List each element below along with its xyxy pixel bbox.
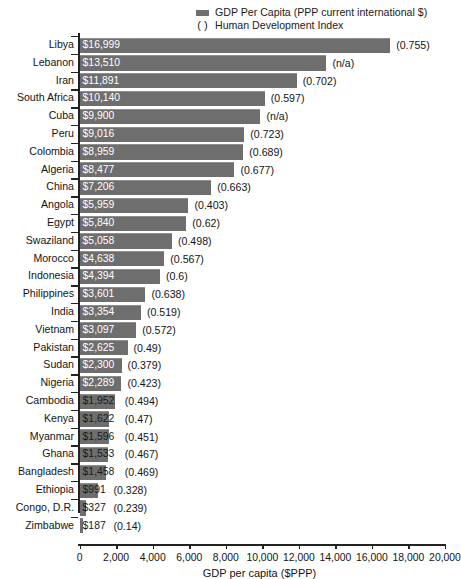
bar-row: Cambodia$1,952(0.494) [0,392,461,410]
category-label: Philippines [23,286,74,301]
bar-value-label: $1,458 [80,465,115,479]
bar-value-label: $1,952 [80,394,115,408]
legend-swatch-icon [196,10,209,16]
bar-value-label: $1,622 [80,412,115,426]
category-label: China [46,179,74,194]
bar-value-label: $2,625 [80,341,115,355]
x-axis-tick-label: 10,000 [246,551,278,564]
hdi-label: (0.723) [250,127,284,141]
x-axis-tick [116,544,117,549]
x-axis-tick [153,544,154,549]
category-label: Libya [49,37,74,52]
bar-value-label: $13,510 [80,56,121,70]
chart-plot-area: Libya$16,999(0.755)Lebanon$13,510(n/a)Ir… [0,33,461,511]
category-label: Swaziland [26,233,74,248]
x-axis-tick-label: 14,000 [319,551,351,564]
bar-value-label: $2,300 [80,358,115,372]
bar-value-label: $9,900 [80,109,115,123]
category-label: Cuba [49,108,74,123]
bar-value-label: $8,477 [80,163,115,177]
bar-row: Ghana$1,533(0.467) [0,445,461,463]
bar-row: Sudan$2,300(0.379) [0,356,461,374]
hdi-label: (0.519) [147,305,181,319]
bar-row: Lebanon$13,510(n/a) [0,54,461,72]
bar-value-label: $2,289 [80,376,115,390]
legend-label-hdi: Human Development Index [215,19,343,32]
x-axis-tick [189,544,190,549]
hdi-label: (0.403) [194,198,228,212]
bar-row: Angola$5,959(0.403) [0,196,461,214]
hdi-label: (0.239) [113,501,147,515]
hdi-label: (0.423) [127,376,161,390]
hdi-label: (0.469) [125,465,159,479]
bar-row: Iran$11,891(0.702) [0,72,461,90]
hdi-label: (n/a) [266,109,288,123]
bar-value-label: $1,533 [80,447,115,461]
category-label: Algeria [41,162,74,177]
category-label: Pakistan [33,340,74,355]
hdi-label: (0.755) [396,38,430,52]
category-label: Iran [56,73,74,88]
bar-row: Cuba$9,900(n/a) [0,107,461,125]
x-axis-tick [262,544,263,549]
bar-row: Myanmar$1,596(0.451) [0,428,461,446]
bar-row: Vietnam$3,097(0.572) [0,321,461,339]
category-label: Bangladesh [18,464,74,479]
x-axis-title-text: GDP per capita ($PPP) [145,567,317,579]
hdi-label: (0.677) [240,163,274,177]
x-axis-tick [372,544,373,549]
bar-row: Kenya$1,622(0.47) [0,410,461,428]
x-axis-tick [226,544,227,549]
category-label: Vietnam [35,322,74,337]
category-label: Kenya [44,411,74,426]
category-label: India [51,304,74,319]
bar-value-label: $3,601 [80,287,115,301]
hdi-label: (0.663) [217,180,251,194]
hdi-label: (0.498) [178,234,212,248]
hdi-label: (0.702) [303,74,337,88]
category-label: Myanmar [30,429,74,444]
category-label: Zimbabwe [25,518,74,533]
x-axis-tick-label: 4,000 [140,551,166,564]
category-label: Colombia [29,144,74,159]
hdi-label: (0.638) [151,287,185,301]
bar-value-label: $11,891 [80,74,120,88]
hdi-label: (0.328) [113,483,147,497]
bar-row: Libya$16,999(0.755) [0,36,461,54]
x-axis-tick [445,544,446,549]
hdi-label: (n/a) [332,56,354,70]
hdi-label: (0.597) [271,91,305,105]
category-label: Cambodia [26,393,74,408]
bar-row: Bangladesh$1,458(0.469) [0,463,461,481]
legend-item-hdi: ( ) Human Development Index [196,19,461,32]
hdi-label: (0.14) [113,519,141,533]
bar-value-label: $4,394 [80,269,115,283]
x-axis-tick-label: 0 [77,551,83,564]
x-axis-title: GDP per capita ($PPP) [0,567,461,579]
bar-row: China$7,206(0.663) [0,178,461,196]
category-label: Angola [41,197,74,212]
bar-row: Pakistan$2,625(0.49) [0,339,461,357]
hdi-label: (0.47) [125,412,153,426]
category-label: Morocco [33,251,74,266]
bar-value-label: $3,354 [80,305,115,319]
category-label: Ghana [42,446,74,461]
bar-row: Indonesia$4,394(0.6) [0,267,461,285]
x-axis-tick-label: 12,000 [283,551,315,564]
bar-row: Colombia$8,959(0.689) [0,143,461,161]
bar-row: Egypt$5,840(0.62) [0,214,461,232]
bar-value-label: $4,638 [80,252,115,266]
category-label: Lebanon [33,55,74,70]
category-label: Sudan [43,357,74,372]
bar-value-label: $9,016 [80,127,115,141]
category-label: Ethiopia [36,482,74,497]
bar-value-label: $5,959 [80,198,115,212]
hdi-label: (0.467) [125,447,159,461]
bar-value-label: $3,097 [80,323,115,337]
category-label: Peru [52,126,74,141]
hdi-label: (0.572) [142,323,176,337]
bar-row: Morocco$4,638(0.567) [0,250,461,268]
bar-row: South Africa$10,140(0.597) [0,89,461,107]
category-label: Indonesia [28,268,74,283]
hdi-label: (0.567) [170,252,204,266]
